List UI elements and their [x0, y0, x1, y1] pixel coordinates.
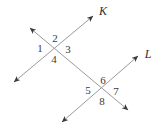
- angle-label-3: 3: [61, 44, 75, 55]
- angle-label-4: 4: [47, 54, 61, 65]
- angle-label-1: 1: [33, 43, 47, 54]
- angle-label-6: 6: [96, 75, 110, 86]
- transversal-upper-left: [30, 28, 128, 110]
- angle-label-7: 7: [109, 86, 123, 97]
- angle-label-2: 2: [48, 33, 62, 44]
- angle-label-5: 5: [81, 85, 95, 96]
- line-label-l: L: [140, 48, 156, 60]
- angle-label-8: 8: [95, 96, 109, 107]
- geometry-figure: 12345678 KL: [0, 0, 158, 131]
- line-k: [14, 16, 93, 82]
- lines-group: [14, 16, 138, 122]
- geometry-canvas: [0, 0, 158, 131]
- line-l: [62, 56, 138, 122]
- line-label-k: K: [95, 5, 111, 17]
